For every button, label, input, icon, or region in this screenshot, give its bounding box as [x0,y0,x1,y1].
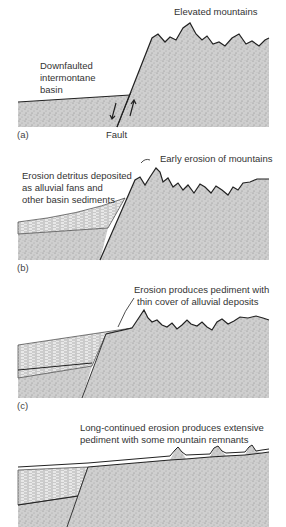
panel-d [18,445,269,527]
label-pediment-line2: thin cover of alluvial deposits [137,296,258,307]
pointer-arrow-icon [118,298,134,327]
panel-label-a: (a) [17,129,29,140]
panel-c [18,298,269,398]
label-early-erosion: Early erosion of mountains [160,153,272,164]
label-basin-line2: intermontane [40,72,95,83]
label-detritus-line2: as alluvial fans and [22,182,103,193]
label-long-line1: Long-continued erosion produces extensiv… [80,422,264,433]
mountain-block-b [100,168,269,260]
label-elevated-mountains: Elevated mountains [174,6,257,17]
label-long-line2: pediment with some mountain remnants [80,434,248,445]
label-pediment-line1: Erosion produces pediment with [134,284,269,295]
mountain-block-c [82,310,269,398]
mountain-block [117,23,269,127]
label-basin-line1: Downfaulted [40,60,93,71]
panel-label-c: (c) [17,400,28,411]
label-basin-line3: basin [40,84,63,95]
label-detritus-line3: other basin sediments [22,194,115,205]
basin-block [18,95,130,127]
label-detritus-line1: Erosion detritus deposited [22,170,132,181]
pediment-block-d [67,445,269,527]
panel-label-b: (b) [17,262,29,273]
label-fault: Fault [106,129,127,140]
